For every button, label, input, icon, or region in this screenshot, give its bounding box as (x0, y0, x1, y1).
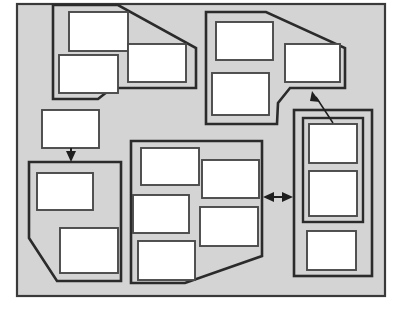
node-box[interactable] (309, 171, 357, 216)
node-box[interactable] (69, 12, 128, 51)
standalone-node-left[interactable] (42, 110, 99, 148)
node-box[interactable] (216, 22, 273, 60)
node-box[interactable] (212, 73, 269, 115)
node-box[interactable] (307, 231, 356, 270)
node-box[interactable] (37, 173, 93, 210)
diagram-root (0, 0, 402, 314)
node-box[interactable] (141, 148, 199, 185)
node-box[interactable] (42, 110, 99, 148)
node-box[interactable] (202, 160, 259, 198)
node-box[interactable] (59, 55, 118, 93)
node-box[interactable] (60, 228, 118, 273)
node-box[interactable] (285, 44, 340, 82)
node-box[interactable] (138, 241, 195, 280)
node-box[interactable] (133, 195, 189, 233)
node-box[interactable] (128, 44, 186, 82)
diagram-canvas (0, 0, 402, 314)
node-box[interactable] (200, 207, 258, 246)
node-box[interactable] (309, 124, 357, 163)
